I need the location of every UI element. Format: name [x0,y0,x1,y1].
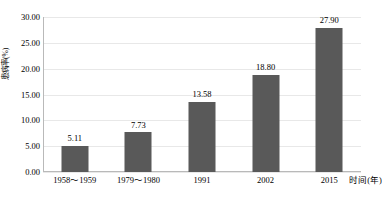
y-axis-tick-label: 20.00 [10,64,40,73]
bar-value-label: 13.58 [192,90,211,99]
bar[interactable] [252,75,279,172]
y-axis-title: 患病率(%) [2,36,10,92]
x-axis-title: 时间(年) [349,176,382,185]
x-axis-tick-label: 1958～1959 [53,176,96,185]
gridline [43,172,361,173]
bar[interactable] [61,146,88,172]
bar-slot: 7.73 [107,17,171,172]
bar-slot: 27.90 [297,17,361,172]
plot-area: 5.117.7313.5818.8027.90 [43,17,361,172]
bar[interactable] [316,28,343,172]
bar-value-label: 27.90 [320,16,339,25]
bar-slot: 18.80 [234,17,298,172]
bar-value-label: 5.11 [68,134,83,143]
y-axis-tick-label: 5.00 [10,142,40,151]
bar[interactable] [125,132,152,172]
bar-value-label: 18.80 [256,63,275,72]
bar-series: 5.117.7313.5818.8027.90 [43,17,361,172]
y-axis-tick-label: 25.00 [10,39,40,48]
y-axis-tick-label: 15.00 [10,90,40,99]
y-axis-tick-label: 30.00 [10,13,40,22]
x-axis-tick-label: 2002 [257,176,274,185]
y-axis-tick-labels: 30.0025.0020.0015.0010.005.000.00 [10,0,40,200]
y-axis-tick-label: 10.00 [10,116,40,125]
bar[interactable] [188,102,215,172]
x-axis-tick-label: 2015 [321,176,338,185]
x-axis-tick-label: 1979～1980 [117,176,160,185]
bar-slot: 13.58 [170,17,234,172]
y-axis-tick-label: 0.00 [10,168,40,177]
x-axis-tick-labels: 1958～19591979～1980199120022015时间(年) [43,176,361,192]
bar-value-label: 7.73 [131,121,146,130]
x-axis-tick-label: 1991 [194,176,211,185]
bar-slot: 5.11 [43,17,107,172]
